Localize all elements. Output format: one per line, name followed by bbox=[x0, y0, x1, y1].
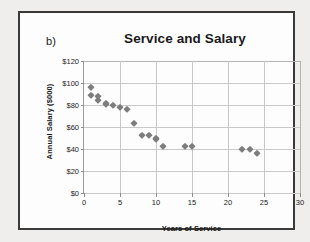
x-tick-label: 10 bbox=[152, 198, 160, 207]
data-point bbox=[239, 146, 245, 152]
y-tick-mark bbox=[81, 83, 84, 84]
figure-frame: b) Service and Salary Annual Salary ($00… bbox=[18, 11, 295, 230]
plot-area: $0$20$40$60$80$100$120 051015202530 bbox=[83, 61, 300, 194]
x-tick-mark bbox=[228, 193, 229, 197]
x-tick-mark bbox=[84, 193, 85, 197]
data-point bbox=[254, 150, 260, 156]
gridline-vertical bbox=[264, 61, 265, 193]
y-tick-label: $20 bbox=[66, 167, 79, 176]
data-point bbox=[110, 102, 116, 108]
data-point bbox=[88, 84, 94, 90]
chart-title: Service and Salary bbox=[80, 31, 290, 46]
gridline-vertical bbox=[156, 61, 157, 193]
y-tick-mark bbox=[81, 127, 84, 128]
data-point bbox=[95, 96, 101, 102]
gridline-vertical bbox=[192, 61, 193, 193]
data-point bbox=[160, 142, 166, 148]
gridline-vertical bbox=[120, 61, 121, 193]
x-tick-mark bbox=[120, 193, 121, 197]
x-tick-mark bbox=[192, 193, 193, 197]
x-tick-mark bbox=[264, 193, 265, 197]
y-tick-mark bbox=[81, 171, 84, 172]
y-tick-label: $120 bbox=[62, 57, 79, 66]
x-tick-label: 15 bbox=[188, 198, 196, 207]
data-point bbox=[146, 131, 152, 137]
y-tick-mark bbox=[81, 61, 84, 62]
y-tick-label: $0 bbox=[71, 189, 79, 198]
y-tick-label: $80 bbox=[66, 101, 79, 110]
x-tick-mark bbox=[300, 193, 301, 197]
y-tick-mark bbox=[81, 105, 84, 106]
panel-letter: b) bbox=[46, 35, 56, 47]
x-tick-label: 30 bbox=[296, 198, 304, 207]
data-point bbox=[131, 119, 137, 125]
x-tick-label: 0 bbox=[82, 198, 86, 207]
page-background: b) Service and Salary Annual Salary ($00… bbox=[0, 0, 310, 242]
gridline-vertical bbox=[300, 61, 301, 193]
x-tick-label: 5 bbox=[118, 198, 122, 207]
x-tick-label: 20 bbox=[224, 198, 232, 207]
y-tick-label: $60 bbox=[66, 123, 79, 132]
data-point bbox=[124, 106, 130, 112]
data-point bbox=[246, 146, 252, 152]
x-axis-title: Years of Service bbox=[83, 224, 300, 233]
y-axis-title: Annual Salary ($000) bbox=[45, 62, 54, 182]
x-tick-label: 25 bbox=[260, 198, 268, 207]
y-tick-mark bbox=[81, 149, 84, 150]
y-tick-label: $40 bbox=[66, 145, 79, 154]
data-point bbox=[138, 131, 144, 137]
gridline-vertical bbox=[228, 61, 229, 193]
x-tick-mark bbox=[156, 193, 157, 197]
data-point bbox=[88, 92, 94, 98]
y-tick-label: $100 bbox=[62, 79, 79, 88]
